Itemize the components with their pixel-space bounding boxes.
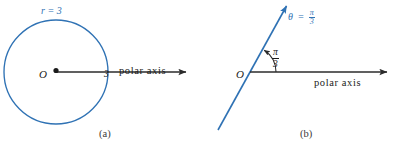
pi-over-3-fraction-b: π 3 bbox=[309, 9, 315, 27]
polar-axis-label-a: polar axis bbox=[119, 66, 166, 77]
origin-label-b: O bbox=[236, 69, 244, 80]
figure-canvas bbox=[0, 0, 400, 150]
polar-axis-label-b: polar axis bbox=[314, 78, 361, 89]
fraction-numerator: π bbox=[309, 9, 315, 17]
equation-label-b: θ = π 3 bbox=[288, 9, 315, 27]
fraction-denominator: 3 bbox=[309, 17, 315, 27]
pi-over-3-fraction-arc: π 3 bbox=[272, 48, 279, 69]
angle-label-pi-over-3: π 3 bbox=[272, 48, 279, 69]
angle-numerator: π bbox=[272, 48, 279, 58]
theta-symbol: θ bbox=[288, 11, 293, 22]
caption-a: (a) bbox=[99, 129, 111, 140]
angle-denominator: 3 bbox=[272, 58, 279, 69]
polar-graphs-figure: r = 3 O 3 polar axis (a) θ = π 3 O π 3 p… bbox=[0, 0, 400, 150]
equals-symbol: = bbox=[297, 11, 304, 22]
caption-b: (b) bbox=[300, 129, 312, 140]
origin-dot-a bbox=[53, 68, 58, 73]
equation-label-a: r = 3 bbox=[41, 6, 62, 16]
tick-label-3: 3 bbox=[104, 70, 109, 80]
origin-label-a: O bbox=[39, 69, 47, 80]
